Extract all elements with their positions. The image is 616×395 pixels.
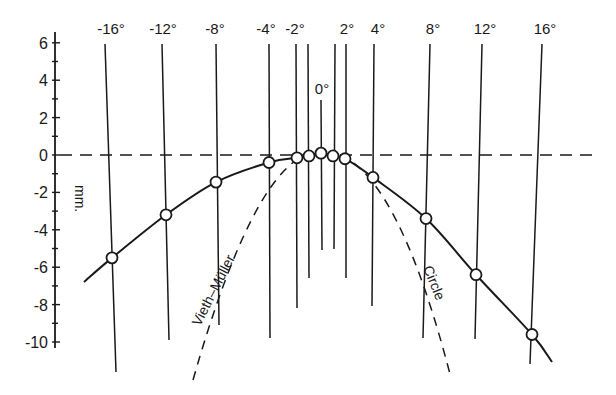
angle-label: -16° <box>97 20 125 37</box>
y-tick-label: -8 <box>34 297 48 314</box>
angle-label: 0° <box>315 80 329 97</box>
y-tick-label: -2 <box>34 184 48 201</box>
data-point-marker <box>328 150 339 161</box>
angle-label: 12° <box>474 20 497 37</box>
data-point-marker <box>161 209 172 220</box>
direction-line <box>530 44 542 364</box>
angle-label: -8° <box>205 20 224 37</box>
data-point-marker <box>211 177 222 188</box>
direction-line <box>162 44 169 340</box>
direction-line <box>105 44 116 372</box>
angle-label: 4° <box>371 20 385 37</box>
direction-line <box>269 44 270 338</box>
data-point-marker <box>316 148 327 159</box>
data-point-marker <box>304 150 315 161</box>
y-tick-label: 2 <box>39 110 48 127</box>
y-tick-label: -10 <box>25 334 48 351</box>
angle-label: -4° <box>256 20 275 37</box>
direction-line <box>475 44 482 339</box>
data-point-marker <box>107 252 118 263</box>
y-tick-label: 0 <box>39 147 48 164</box>
angle-labels: -16°-12°-8°-4°-2°0°2°4°8°12°16° <box>97 20 556 97</box>
data-point-marker <box>292 152 303 163</box>
y-tick-label: -6 <box>34 259 48 276</box>
y-axis-label: mm. <box>72 185 88 212</box>
angle-label: 8° <box>426 20 440 37</box>
data-point-marker <box>421 213 432 224</box>
y-axis: 6420-2-4-6-8-10 <box>25 32 60 351</box>
measured-curve-line <box>84 153 552 362</box>
angle-label: -2° <box>285 20 304 37</box>
y-tick-label: 4 <box>39 72 48 89</box>
y-tick-label: 6 <box>39 35 48 52</box>
y-tick-label: -4 <box>34 222 48 239</box>
angle-label: 2° <box>340 20 354 37</box>
vieth-muller-curve <box>193 155 305 380</box>
angle-label: -12° <box>149 20 177 37</box>
direction-line <box>334 44 335 249</box>
vieth-muller-label: Vieth–Müller <box>188 252 238 329</box>
measured-horopter-curve <box>84 153 552 362</box>
direction-line <box>321 100 322 250</box>
horopter-chart: 6420-2-4-6-8-10 -16°-12°-8°-4°-2°0°2°4°8… <box>0 0 616 395</box>
data-point-marker <box>340 153 351 164</box>
data-point-marker <box>368 172 379 183</box>
direction-line <box>296 44 297 308</box>
data-point-marker <box>527 329 538 340</box>
angle-label: 16° <box>534 20 557 37</box>
data-point-marker <box>471 269 482 280</box>
data-point-marker <box>264 157 275 168</box>
